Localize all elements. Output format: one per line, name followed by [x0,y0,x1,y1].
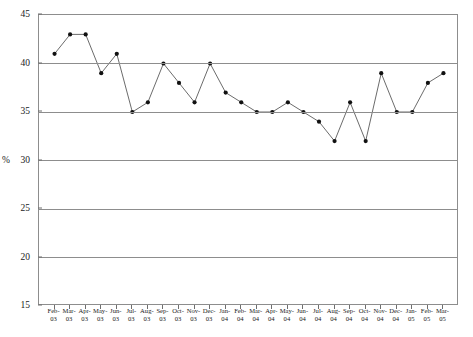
data-point [426,81,430,85]
y-axis-tick-label-20: 20 [21,252,31,262]
y-axis-tick-label-25: 25 [21,203,31,213]
x-axis-tick-mark [194,305,195,309]
y-axis-tick-label-45: 45 [21,9,31,19]
x-axis-tick-mark [318,305,319,309]
y-axis-tick-mark-15 [38,305,42,306]
y-axis-tick-mark-20 [38,256,42,257]
gridline-35 [39,112,457,113]
y-axis-tick-label-30: 30 [21,155,31,165]
y-axis-tick-label-40: 40 [21,58,31,68]
x-axis-tick-mark [147,305,148,309]
gridline-30 [39,160,457,161]
data-point [441,71,445,75]
x-axis: Feb-03Mar-03Apr-03May-03Jun-03Jul-03Aug-… [38,307,458,335]
data-point [239,100,243,104]
x-axis-tick-mark [302,305,303,309]
x-axis-tick-mark [442,305,443,309]
x-axis-tick-mark [85,305,86,309]
x-axis-tick-mark [100,305,101,309]
x-axis-tick-mark [225,305,226,309]
x-axis-tick-mark [116,305,117,309]
x-axis-tick-mark [271,305,272,309]
data-point [286,100,290,104]
gridline-40 [39,63,457,64]
data-point [52,52,56,56]
y-axis-tick-mark-40 [38,62,42,63]
x-axis-tick-mark [427,305,428,309]
x-axis-tick-mark [209,305,210,309]
data-point [364,139,368,143]
line-chart: 15202530354045 Feb-03Mar-03Apr-03May-03J… [0,0,473,337]
data-point [146,100,150,104]
plot-area [38,14,458,305]
x-axis-tick-mark [287,305,288,309]
gridline-25 [39,209,457,210]
x-axis-tick-mark [349,305,350,309]
y-axis-tick-label-15: 15 [21,300,31,310]
x-axis-tick-label: Mar-05 [425,307,459,324]
x-axis-tick-mark [54,305,55,309]
data-point [68,32,72,36]
x-axis-tick-mark [240,305,241,309]
data-point [115,52,119,56]
data-point [177,81,181,85]
x-axis-tick-mark [334,305,335,309]
x-axis-tick-mark [380,305,381,309]
x-axis-tick-mark [131,305,132,309]
data-point [224,91,228,95]
x-axis-tick-mark [411,305,412,309]
data-point [192,100,196,104]
x-axis-tick-mark [365,305,366,309]
y-axis-tick-mark-35 [38,111,42,112]
y-axis-tick-mark-30 [38,159,42,160]
data-point [84,32,88,36]
x-axis-tick-mark [178,305,179,309]
x-axis-tick-mark [69,305,70,309]
data-point [379,71,383,75]
x-tick-year: 05 [425,315,459,323]
y-axis-tick-mark-25 [38,208,42,209]
x-axis-tick-mark [396,305,397,309]
y-axis-tick-label-35: 35 [21,106,31,116]
data-point [317,120,321,124]
y-axis-tick-mark-45 [38,14,42,15]
x-axis-tick-mark [256,305,257,309]
series-line [55,34,444,141]
x-axis-tick-mark [162,305,163,309]
y-axis-unit-label: % [2,155,10,165]
gridline-20 [39,257,457,258]
data-point [332,139,336,143]
data-point [348,100,352,104]
data-point [99,71,103,75]
